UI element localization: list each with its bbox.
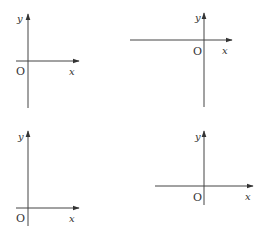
x-axis-label: x	[69, 213, 75, 224]
x-axis-label: x	[245, 191, 251, 202]
y-axis-label: y	[194, 131, 201, 142]
panel-top-left: y O x	[16, 13, 79, 108]
panel-bottom-right: y O x	[155, 131, 253, 205]
origin-label: O	[16, 212, 25, 225]
x-axis-label: x	[69, 66, 75, 77]
origin-label: O	[193, 191, 202, 204]
origin-label: O	[16, 65, 25, 78]
coordinate-axes-figure: y O x y O x y O x y O x	[0, 0, 269, 237]
panel-top-right: y O x	[130, 12, 232, 107]
panel-bottom-left: y O x	[16, 131, 79, 226]
y-axis-label: y	[16, 13, 23, 24]
origin-label: O	[193, 45, 202, 58]
x-axis-label: x	[222, 45, 228, 56]
y-axis-label: y	[194, 12, 201, 23]
y-axis-label: y	[17, 131, 24, 142]
